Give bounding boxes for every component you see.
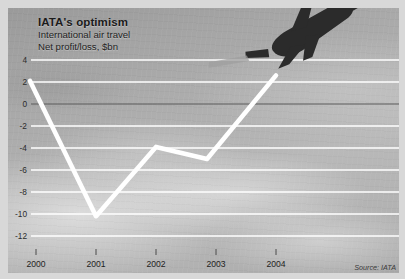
- sky-photo-background: 4 2 0 -2 -4 -6 -8 -10 -12 2000 2001: [8, 8, 399, 273]
- chart-subtitle: International air travel: [38, 29, 130, 40]
- page-title: IATA's optimism: [38, 16, 130, 29]
- source-credit: Source: IATA: [354, 263, 396, 272]
- chart-title-block: IATA's optimism International air travel…: [38, 16, 130, 52]
- chart-figure: 4 2 0 -2 -4 -6 -8 -10 -12 2000 2001: [0, 0, 405, 279]
- chart-axis-note: Net profit/loss, $bn: [38, 41, 130, 52]
